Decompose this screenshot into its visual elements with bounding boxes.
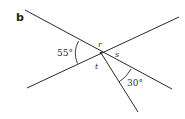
line-lower-left-to-upper-right — [27, 17, 179, 88]
angle-label-30: 30° — [127, 78, 143, 88]
angle-label-55: 55° — [57, 48, 73, 58]
angle-label-t: t — [95, 62, 99, 71]
angle-label-r: r — [98, 40, 103, 49]
angle-diagram: b 55° 30° r s t — [0, 0, 185, 119]
arc-55-degrees — [75, 41, 78, 64]
line-upper-left-to-lower-right — [25, 10, 172, 89]
intersection-point — [100, 52, 103, 55]
part-label: b — [16, 11, 24, 24]
angle-label-s: s — [115, 50, 119, 59]
